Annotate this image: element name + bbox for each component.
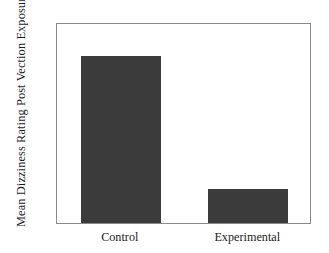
y-axis-title: Mean Dizziness Rating Post Vection Expos…: [14, 12, 29, 227]
bar-chart-figure: Mean Dizziness Rating Post Vection Expos…: [0, 0, 329, 253]
bar: [81, 56, 161, 223]
x-axis-label: Control: [50, 229, 190, 245]
bar: [208, 189, 288, 223]
plot-area: [56, 23, 311, 224]
x-axis-label: Experimental: [177, 229, 317, 245]
